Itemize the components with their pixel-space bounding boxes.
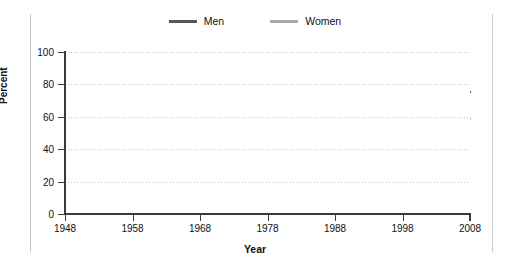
y-axis-line <box>64 51 66 215</box>
y-tick-80 <box>58 84 64 85</box>
y-tick-0 <box>58 214 64 215</box>
x-tick-label: 2008 <box>447 223 493 234</box>
legend-item-men: Men <box>169 16 224 27</box>
y-tick-label: 100 <box>0 47 54 58</box>
x-tick-1978 <box>268 215 269 221</box>
gridline-y-80 <box>65 84 470 85</box>
y-tick-label: 60 <box>0 111 54 122</box>
legend-swatch-women <box>270 20 298 23</box>
gridline-y-20 <box>65 182 470 183</box>
x-tick-2008 <box>470 215 471 221</box>
legend-swatch-men <box>169 20 197 23</box>
y-tick-label: 40 <box>0 144 54 155</box>
legend-label: Men <box>204 16 224 27</box>
y-tick-label: 0 <box>0 209 54 220</box>
x-tick-1998 <box>403 215 404 221</box>
y-tick-20 <box>58 182 64 183</box>
chart-figure: MenWomen 020406080100 194819581968197819… <box>0 0 510 266</box>
gridline-y-60 <box>65 117 470 118</box>
x-axis-title: Year <box>0 243 510 255</box>
plot-background <box>65 52 470 214</box>
x-tick-1948 <box>65 215 66 221</box>
x-tick-label: 1948 <box>42 223 88 234</box>
legend-item-women: Women <box>270 16 341 27</box>
x-tick-1958 <box>133 215 134 221</box>
x-tick-label: 1958 <box>110 223 156 234</box>
x-tick-label: 1968 <box>177 223 223 234</box>
y-tick-label: 20 <box>0 176 54 187</box>
x-tick-label: 1978 <box>245 223 291 234</box>
x-tick-label: 1998 <box>380 223 426 234</box>
x-tick-1988 <box>335 215 336 221</box>
gridline-y-40 <box>65 149 470 150</box>
y-tick-40 <box>58 149 64 150</box>
plot-area <box>65 52 470 214</box>
x-tick-1968 <box>200 215 201 221</box>
y-tick-100 <box>58 52 64 53</box>
figure-right-border <box>492 14 493 252</box>
y-axis-title: Percent <box>0 67 9 104</box>
y-tick-60 <box>58 117 64 118</box>
x-tick-label: 1988 <box>312 223 358 234</box>
gridline-y-100 <box>65 52 470 53</box>
chart-legend: MenWomen <box>0 12 510 30</box>
legend-label: Women <box>305 16 341 27</box>
